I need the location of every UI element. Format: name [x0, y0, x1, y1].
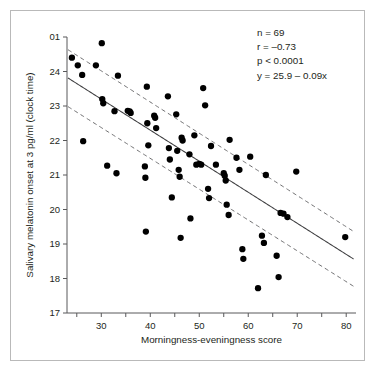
data-point	[284, 214, 290, 220]
data-point	[208, 143, 214, 149]
data-point	[142, 175, 148, 181]
data-point	[79, 72, 85, 78]
data-point	[144, 120, 150, 126]
y-tick-label: 24	[49, 66, 60, 77]
data-point	[293, 168, 299, 174]
data-point	[174, 148, 180, 154]
data-point	[128, 110, 134, 116]
data-point	[225, 212, 231, 218]
data-point	[69, 55, 75, 61]
data-point	[142, 163, 148, 169]
data-point	[152, 115, 158, 121]
data-point	[176, 167, 182, 173]
x-tick-label: 70	[292, 320, 303, 331]
data-point	[186, 151, 192, 157]
annotation-equation: y = 25.9 – 0.09x	[257, 70, 327, 81]
data-point	[153, 125, 159, 131]
x-tick-label: 50	[194, 320, 205, 331]
data-point	[177, 235, 183, 241]
data-point	[259, 233, 265, 239]
y-tick-label: 17	[49, 307, 60, 318]
figure-container: 171819202122232401304050607080Morningnes…	[0, 0, 377, 372]
data-point	[226, 137, 232, 143]
y-axis-title: Salivary melatonin onset at 3 pg/ml (clo…	[24, 72, 35, 277]
data-point	[205, 186, 211, 192]
data-point	[247, 154, 253, 160]
x-tick-label: 60	[243, 320, 254, 331]
y-tick-label: 19	[49, 238, 60, 249]
data-point	[167, 156, 173, 162]
y-tick-label: 20	[49, 204, 60, 215]
data-point	[202, 102, 208, 108]
data-point	[80, 138, 86, 144]
data-point	[342, 234, 348, 240]
data-point	[223, 177, 229, 183]
data-point	[239, 246, 245, 252]
data-point	[173, 111, 179, 117]
annotation-r: r = –0.73	[257, 41, 296, 52]
data-point	[263, 172, 269, 178]
x-tick-label: 80	[341, 320, 352, 331]
data-point	[255, 285, 261, 291]
y-tick-label: 01	[49, 31, 60, 42]
scatter-plot: 171819202122232401304050607080Morningnes…	[0, 0, 377, 372]
data-point	[111, 108, 117, 114]
data-point	[213, 162, 219, 168]
data-point	[240, 256, 246, 262]
data-point	[144, 84, 150, 90]
data-point	[236, 167, 242, 173]
data-point	[233, 155, 239, 161]
data-point	[274, 253, 280, 259]
data-point	[198, 162, 204, 168]
x-tick-label: 30	[96, 320, 107, 331]
data-point	[187, 215, 193, 221]
data-point	[166, 145, 172, 151]
x-axis-title: Morningness-eveningness score	[141, 334, 283, 345]
data-point	[143, 228, 149, 234]
data-point	[206, 195, 212, 201]
data-point	[179, 137, 185, 143]
x-tick-label: 40	[145, 320, 156, 331]
data-point	[113, 170, 119, 176]
data-point	[99, 40, 105, 46]
regression-line	[68, 78, 354, 259]
annotation-p: p < 0.0001	[257, 55, 304, 66]
data-point	[177, 174, 183, 180]
annotation-n: n = 69	[257, 27, 285, 38]
data-point	[275, 274, 281, 280]
y-tick-label: 21	[49, 169, 60, 180]
data-point	[165, 93, 171, 99]
data-point	[261, 240, 267, 246]
data-point	[145, 142, 151, 148]
data-point	[200, 85, 206, 91]
data-point	[169, 194, 175, 200]
data-point	[191, 132, 197, 138]
data-point	[93, 62, 99, 68]
data-point	[75, 62, 81, 68]
data-point	[115, 72, 121, 78]
y-tick-label: 22	[49, 135, 60, 146]
data-point	[224, 202, 230, 208]
data-point	[104, 163, 110, 169]
y-tick-label: 18	[49, 273, 60, 284]
data-point	[100, 100, 106, 106]
y-tick-label: 23	[49, 100, 60, 111]
